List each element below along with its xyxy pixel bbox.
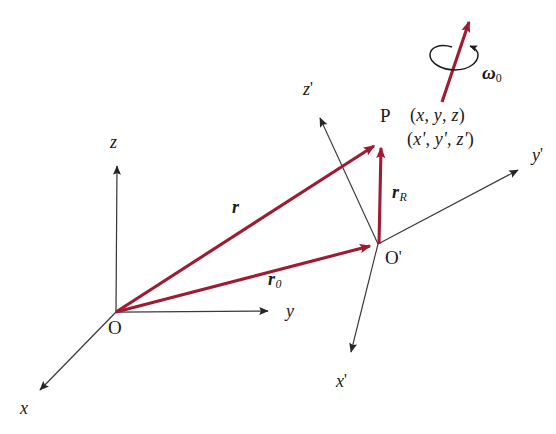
vector-label-rR-subscript: R — [400, 190, 407, 204]
comma-2-primed: , — [447, 129, 456, 149]
vector-label-omega0: ω0 — [482, 63, 502, 84]
point-label-O-text: O — [108, 317, 122, 338]
comma-2-unprimed: , — [442, 105, 451, 125]
vector-group — [116, 22, 469, 312]
prime-mark-z: ' — [310, 79, 313, 96]
vector-label-r0-subscript: 0 — [276, 277, 282, 291]
comma-1-primed: , — [425, 129, 434, 149]
axis-x-line — [40, 312, 116, 390]
vector-rR-line — [379, 148, 381, 244]
vector-label-r: r — [232, 198, 239, 216]
axis-label-y-text: y — [286, 301, 294, 321]
point-label-O-prime: O' — [385, 248, 402, 267]
vector-label-omega0-subscript: 0 — [496, 71, 502, 85]
point-label-P: P — [380, 106, 391, 125]
vector-label-rR-text: r — [392, 182, 399, 202]
point-label-O: O — [108, 318, 122, 337]
point-label-O-prime-text: O — [385, 247, 399, 268]
axis-label-x-text: x — [20, 398, 28, 418]
coord-z-primed: z' — [457, 129, 468, 149]
vector-label-r0-text: r — [268, 269, 275, 289]
diagram-svg — [0, 0, 556, 434]
axis-z-line — [116, 166, 117, 312]
axis-label-z-prime: z' — [303, 80, 313, 98]
coordinates-primed: (x', y', z') — [407, 130, 474, 148]
coord-y-unprimed: y — [434, 105, 442, 125]
axis-z-prime-line — [320, 118, 378, 244]
figure-root: z y x z' y' x' O O' P r r0 rR ω0 (x, y, … — [0, 0, 556, 434]
prime-mark-y: ' — [540, 145, 543, 162]
rotating-frame-axes — [320, 118, 518, 352]
vector-label-rR: rR — [392, 183, 407, 203]
axis-y-line — [116, 311, 268, 312]
comma-1-unprimed: , — [424, 105, 433, 125]
axis-x-prime-line — [351, 244, 378, 352]
axis-label-y: y — [286, 302, 294, 320]
prime-mark-x: ' — [344, 371, 347, 388]
vector-r0-line — [116, 246, 370, 312]
coord-z-unprimed: z — [451, 105, 458, 125]
coord-x-primed: x' — [413, 129, 425, 149]
axis-label-z: z — [110, 133, 117, 151]
axis-label-z-prime-text: z — [303, 79, 310, 99]
axis-label-x: x — [20, 399, 28, 417]
axis-label-x-prime: x' — [336, 372, 347, 390]
vector-label-r-text: r — [232, 197, 239, 217]
vector-label-omega0-text: ω — [482, 62, 496, 83]
point-label-P-text: P — [380, 105, 391, 126]
axis-label-x-prime-text: x — [336, 371, 344, 391]
coordinates-unprimed: (x, y, z) — [410, 106, 465, 124]
vector-omega0-line — [442, 22, 469, 102]
coord-y-primed: y' — [435, 129, 447, 149]
vector-r-line — [116, 146, 374, 312]
paren-close-unprimed: ) — [459, 105, 465, 125]
vector-label-r0: r0 — [268, 270, 282, 290]
prime-mark-origin: ' — [399, 248, 402, 265]
axis-label-y-prime: y' — [532, 146, 543, 164]
axis-label-y-prime-text: y — [532, 145, 540, 165]
paren-close-primed: ) — [468, 129, 474, 149]
axis-label-z-text: z — [110, 132, 117, 152]
